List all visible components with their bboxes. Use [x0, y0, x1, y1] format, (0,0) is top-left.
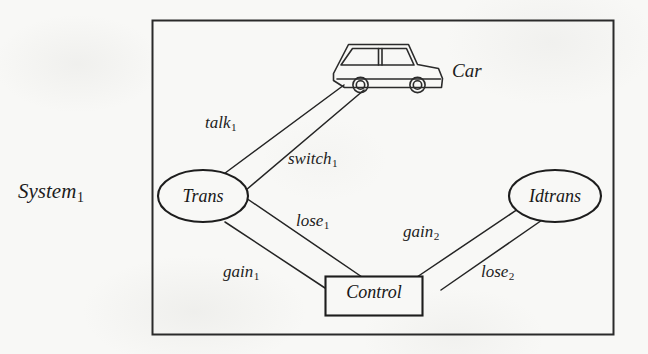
- node-label-trans: Trans: [163, 187, 243, 205]
- edge-label-lose1-text: lose: [296, 211, 323, 230]
- system-label-text: System: [18, 179, 76, 203]
- edge-label-lose1: lose1: [296, 212, 329, 229]
- edge-label-switch1-subscript: 1: [332, 157, 338, 169]
- edge-label-lose2-subscript: 2: [509, 270, 515, 282]
- edge-label-lose1-subscript: 1: [324, 219, 330, 231]
- edge-label-lose2-text: lose: [481, 262, 508, 281]
- edge-line-switch1: [239, 90, 364, 196]
- edge-label-switch1: switch1: [288, 150, 337, 167]
- node-label-idtrans: Idtrans: [511, 187, 599, 205]
- edge-label-gain1: gain1: [223, 263, 259, 280]
- node-label-car: Car: [452, 61, 482, 80]
- system-label: System1: [18, 181, 83, 202]
- edge-label-gain1-subscript: 1: [254, 270, 260, 282]
- edge-label-gain2: gain2: [403, 223, 439, 240]
- edge-label-lose2: lose2: [481, 263, 514, 280]
- edge-label-talk1-subscript: 1: [231, 121, 237, 133]
- edge-lines: [213, 85, 545, 290]
- edge-label-gain2-subscript: 2: [434, 230, 440, 242]
- edge-label-gain1-text: gain: [223, 262, 253, 281]
- edge-label-talk1-text: talk: [205, 113, 231, 132]
- system-label-subscript: 1: [77, 190, 84, 205]
- figure-canvas: System1 Car Trans Idtrans Control talk1 …: [0, 0, 648, 354]
- diagram-graphics: [0, 0, 648, 354]
- edge-line-lose1: [246, 198, 362, 277]
- edge-label-talk1: talk1: [205, 114, 236, 131]
- car-icon: [334, 45, 443, 93]
- node-label-control: Control: [327, 283, 421, 301]
- edge-label-gain2-text: gain: [403, 222, 433, 241]
- edge-label-switch1-text: switch: [288, 149, 331, 168]
